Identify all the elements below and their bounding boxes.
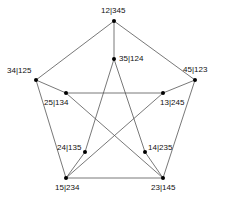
graph-node: [161, 176, 165, 180]
graph-edge: [114, 59, 145, 152]
node-label: 34|125: [7, 67, 31, 75]
node-label: 25|134: [44, 99, 68, 107]
graph-node: [112, 19, 116, 23]
node-label: 13|245: [160, 99, 184, 107]
node-label: 23|145: [151, 184, 175, 192]
graph-node: [193, 78, 197, 82]
graph-edge: [36, 21, 114, 80]
node-label: 12|345: [101, 7, 125, 15]
graph-edge: [36, 80, 66, 178]
graph-node: [112, 57, 116, 61]
graph-edge: [85, 59, 114, 152]
graph-node: [64, 91, 68, 95]
petersen-graph-diagram: 12|34545|12323|14515|23434|12535|12413|2…: [0, 0, 227, 199]
node-label: 45|123: [183, 66, 207, 74]
graph-node: [64, 176, 68, 180]
graph-node: [143, 150, 147, 154]
node-label: 15|234: [55, 184, 79, 192]
graph-node: [34, 78, 38, 82]
node-label: 24|135: [57, 144, 81, 152]
node-label: 14|235: [148, 144, 172, 152]
graph-node: [83, 150, 87, 154]
node-label: 35|124: [119, 55, 143, 63]
graph-edge: [163, 80, 195, 93]
graph-edge: [36, 80, 66, 93]
graph-edge: [163, 80, 195, 178]
graph-edge: [66, 152, 85, 178]
graph-edges: [0, 0, 227, 199]
graph-node: [161, 91, 165, 95]
